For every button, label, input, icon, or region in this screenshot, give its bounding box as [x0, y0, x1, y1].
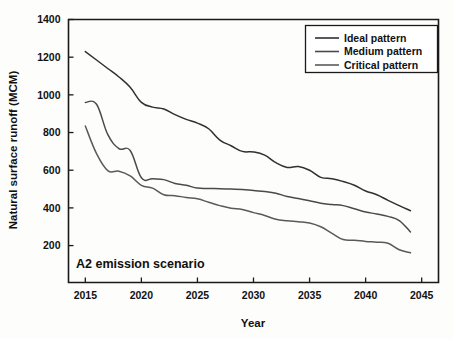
series-lines [85, 52, 410, 253]
x-tick-label: 2045 [410, 289, 434, 301]
chart-figure: 200400600800100012001400 201520202025203… [0, 0, 453, 339]
line-chart: 200400600800100012001400 201520202025203… [0, 0, 453, 339]
x-axis-title: Year [241, 317, 266, 329]
y-tick-label: 600 [43, 164, 61, 176]
x-tick-label: 2040 [354, 289, 378, 301]
y-tick-label: 400 [43, 202, 61, 214]
y-axis-title: Natural surface runoff (MCM) [7, 71, 19, 230]
x-tick-label: 2015 [74, 289, 98, 301]
y-tick-label: 1200 [37, 51, 61, 63]
y-tick-label: 1000 [37, 89, 61, 101]
x-tick-label: 2025 [186, 289, 210, 301]
scenario-annotation: A2 emission scenario [76, 257, 205, 271]
x-tick-label: 2020 [130, 289, 154, 301]
y-tick-label: 800 [43, 126, 61, 138]
legend-label-critical-pattern: Critical pattern [344, 59, 418, 71]
y-tick-label: 1400 [37, 13, 61, 25]
legend-entries: Ideal patternMedium patternCritical patt… [315, 32, 422, 71]
series-line-medium-pattern [85, 101, 410, 232]
x-tick-label: 2030 [242, 289, 266, 301]
x-tick-label: 2035 [298, 289, 322, 301]
y-tick-label: 200 [43, 239, 61, 251]
legend-label-ideal-pattern: Ideal pattern [344, 32, 406, 44]
chart-legend: Ideal patternMedium patternCritical patt… [306, 26, 438, 73]
x-axis-ticks: 2015202020252030203520402045 [74, 278, 434, 301]
legend-label-medium-pattern: Medium pattern [344, 45, 422, 57]
series-line-ideal-pattern [85, 52, 410, 211]
